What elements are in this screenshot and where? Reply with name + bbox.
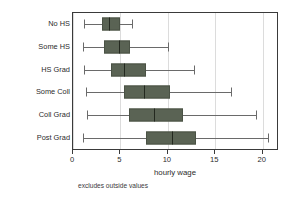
- boxplot-row: [73, 58, 277, 81]
- y-axis-tick-label-hs-grad: HS Grad: [8, 64, 70, 73]
- boxplot-row: [73, 81, 277, 104]
- median-line: [144, 86, 145, 99]
- whisker-lower-cap: [83, 133, 84, 142]
- whisker-lower-line: [86, 92, 124, 93]
- box-iqr: [102, 18, 120, 31]
- boxplot-row: [73, 13, 277, 36]
- median-line: [119, 40, 120, 53]
- x-tick-mark-10: [167, 150, 168, 154]
- x-tick-mark-0: [72, 150, 73, 154]
- whisker-upper-line: [146, 70, 194, 71]
- median-line: [124, 63, 125, 76]
- box-iqr: [111, 63, 146, 76]
- whisker-lower-cap: [86, 88, 87, 97]
- median-line: [154, 108, 155, 121]
- whisker-upper-line: [120, 24, 131, 25]
- median-line: [109, 18, 110, 31]
- box-iqr: [124, 86, 170, 99]
- box-iqr: [104, 40, 130, 53]
- median-line: [172, 131, 173, 144]
- whisker-upper-cap: [256, 110, 257, 119]
- boxplot-figure: Level of Education in six categories No …: [0, 0, 298, 200]
- whisker-lower-cap: [83, 42, 84, 51]
- boxplot-row: [73, 104, 277, 127]
- whisker-lower-line: [84, 24, 102, 25]
- x-tick-mark-5: [119, 150, 120, 154]
- x-axis-title: hourly wage: [72, 168, 278, 177]
- y-axis-tick-label-some-coll: Some Coll: [8, 87, 70, 96]
- y-axis-tick-label-coll-grad: Coll Grad: [8, 110, 70, 119]
- whisker-upper-cap: [132, 20, 133, 29]
- x-tick-mark-15: [214, 150, 215, 154]
- x-tick-label-20: 20: [258, 155, 266, 164]
- y-axis-tick-label-post-grad: Post Grad: [8, 132, 70, 141]
- whisker-lower-line: [84, 70, 111, 71]
- whisker-lower-cap: [87, 110, 88, 119]
- whisker-lower-cap: [84, 65, 85, 74]
- x-tick-mark-20: [262, 150, 263, 154]
- x-tick-label-0: 0: [70, 155, 74, 164]
- y-axis-tick-labels: No HSSome HSHS GradSome CollColl GradPos…: [8, 14, 70, 146]
- whisker-lower-line: [83, 138, 146, 139]
- whisker-upper-line: [130, 47, 168, 48]
- boxplot-row: [73, 126, 277, 149]
- whisker-upper-line: [196, 138, 268, 139]
- whisker-upper-cap: [268, 133, 269, 142]
- whisker-upper-cap: [194, 65, 195, 74]
- whisker-upper-line: [183, 115, 256, 116]
- x-tick-label-10: 10: [163, 155, 171, 164]
- y-axis-tick-label-some-hs: Some HS: [8, 42, 70, 51]
- plot-panel: [72, 12, 278, 150]
- whisker-upper-line: [170, 92, 232, 93]
- y-axis-tick-label-no-hs: No HS: [8, 19, 70, 28]
- whisker-lower-line: [87, 115, 129, 116]
- box-iqr: [129, 108, 183, 121]
- whisker-lower-line: [83, 47, 104, 48]
- whisker-upper-cap: [231, 88, 232, 97]
- x-axis: 05101520: [72, 150, 278, 166]
- x-tick-label-5: 5: [117, 155, 121, 164]
- whisker-lower-cap: [84, 20, 85, 29]
- x-tick-label-15: 15: [210, 155, 218, 164]
- boxplot-row: [73, 36, 277, 59]
- chart-footnote: excludes outside values: [78, 182, 148, 189]
- whisker-upper-cap: [168, 42, 169, 51]
